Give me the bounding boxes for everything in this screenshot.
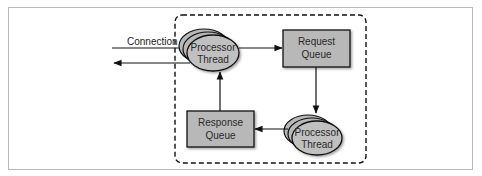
request-queue: Request Queue — [283, 30, 350, 67]
processor-top-line2: Thread — [197, 54, 229, 65]
request-queue-line1: Request — [298, 36, 335, 47]
processor-bottom-line2: Thread — [301, 139, 333, 150]
processor-top-line1: Processor — [190, 42, 236, 53]
response-queue: Response Queue — [187, 111, 254, 147]
response-queue-line2: Queue — [205, 130, 235, 141]
processor-thread-bottom: Processor Thread — [284, 115, 342, 155]
connection-label: Connection — [127, 36, 178, 47]
diagram-canvas: Connection Processor Thread Request Queu… — [0, 0, 482, 176]
request-queue-line2: Queue — [301, 49, 331, 60]
processor-bottom-line1: Processor — [294, 127, 340, 138]
processor-thread-top: Processor Thread — [179, 29, 239, 71]
response-queue-line1: Response — [198, 117, 243, 128]
